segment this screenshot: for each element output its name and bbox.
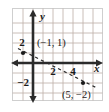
y-tick-label-neg2: −2	[17, 76, 29, 88]
x-axis-label: x	[93, 62, 100, 74]
data-point-b	[81, 81, 85, 85]
point-label-a: (−1, 1)	[37, 37, 66, 49]
coordinate-plane-figure: y x 2 −2 2 4 (−1, 1) (5, −2)	[0, 0, 109, 112]
point-label-b: (5, −2)	[62, 89, 91, 101]
y-axis-label: y	[38, 10, 45, 22]
y-tick-label-2: 2	[19, 36, 25, 48]
coordinate-plane-svg: y x 2 −2 2 4 (−1, 1) (5, −2)	[0, 0, 109, 112]
data-point-a	[21, 51, 25, 55]
